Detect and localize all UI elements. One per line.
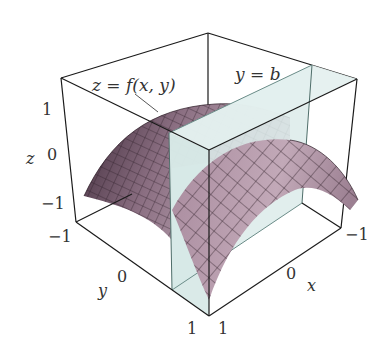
x-tick-0: 0 (286, 264, 296, 283)
z-axis-label: z (25, 149, 35, 168)
y-tick-0: 0 (117, 267, 127, 286)
surface-plot-figure: z = f(x, y) y = b 1 0 −1 z −1 0 1 y −1 0… (0, 0, 382, 351)
surface-label: z = f(x, y) (91, 75, 176, 95)
y-axis-label: y (97, 281, 108, 300)
x-tick-1: 1 (218, 319, 228, 338)
plane-label: y = b (234, 64, 281, 84)
x-axis-label: x (307, 276, 316, 295)
z-tick-1: 1 (42, 100, 52, 119)
z-tick-neg1: −1 (41, 194, 65, 213)
x-tick-neg1: −1 (345, 225, 369, 244)
z-tick-0: 0 (47, 145, 57, 164)
surface-label-pointer (135, 94, 158, 112)
y-tick-1: 1 (187, 319, 197, 338)
y-tick-neg1: −1 (48, 227, 72, 246)
